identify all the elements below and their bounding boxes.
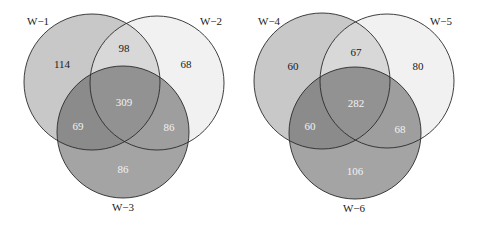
set-label: W−4	[258, 15, 281, 27]
region-count-only-5: 80	[413, 60, 425, 72]
region-count-only-3: 86	[118, 163, 130, 175]
region-count-only-4: 60	[288, 60, 300, 72]
set-label: W−6	[343, 202, 366, 214]
set-label: W−1	[27, 15, 49, 27]
region-count-only-6: 106	[347, 165, 364, 177]
set-label: W−5	[430, 15, 453, 27]
region-count-5-6: 68	[395, 123, 407, 135]
region-count-4-5: 67	[351, 46, 363, 58]
set-label: W−3	[112, 201, 135, 213]
region-count-only-1: 114	[54, 58, 71, 70]
region-count-only-2: 68	[181, 58, 193, 70]
region-count-4-5-6: 282	[348, 97, 365, 109]
circles-layer	[24, 13, 454, 199]
venn-diagrams-canvas: W−1W−2W−31149868309698686W−4W−5W−6606780…	[0, 0, 477, 225]
region-count-2-3: 86	[164, 121, 176, 133]
region-count-4-6: 60	[305, 120, 317, 132]
region-count-1-2-3: 309	[116, 96, 133, 108]
set-label: W−2	[200, 15, 222, 27]
region-count-1-2: 98	[119, 42, 131, 54]
venn-figure: W−1W−2W−31149868309698686W−4W−5W−6606780…	[0, 0, 477, 225]
region-count-1-3: 69	[73, 120, 85, 132]
